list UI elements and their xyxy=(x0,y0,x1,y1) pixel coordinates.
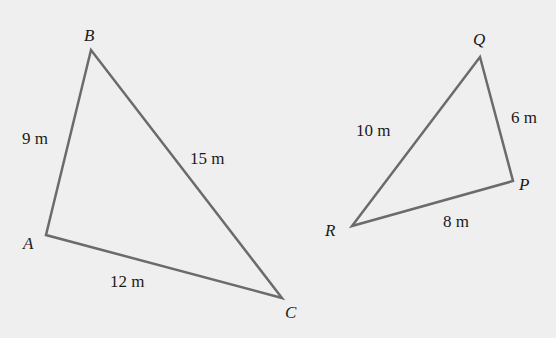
triangles-diagram: B A C 9 m 15 m 12 m Q P R 6 m 10 m 8 m xyxy=(0,0,556,338)
vertex-label-p: P xyxy=(518,175,529,194)
vertex-label-q: Q xyxy=(473,30,485,49)
side-label-rp: 8 m xyxy=(443,212,469,231)
triangle-pqr-outline xyxy=(352,57,513,226)
side-label-bc: 15 m xyxy=(190,149,224,168)
side-label-ab: 9 m xyxy=(22,129,48,148)
vertex-label-r: R xyxy=(324,221,336,240)
vertex-label-b: B xyxy=(84,26,95,45)
vertex-label-a: A xyxy=(22,234,34,253)
vertex-label-c: C xyxy=(285,303,297,322)
side-label-qp: 6 m xyxy=(511,108,537,127)
triangle-pqr: Q P R 6 m 10 m 8 m xyxy=(324,30,537,240)
side-label-qr: 10 m xyxy=(356,121,390,140)
triangle-abc-outline xyxy=(46,50,282,298)
side-label-ac: 12 m xyxy=(110,272,144,291)
triangle-abc: B A C 9 m 15 m 12 m xyxy=(22,26,297,322)
